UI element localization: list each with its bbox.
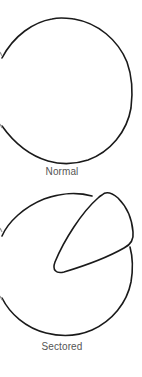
sectored-circle (0, 193, 133, 336)
normal-label: Normal (22, 166, 102, 177)
normal-circle (0, 18, 132, 164)
sectored-label: Sectored (22, 341, 102, 352)
diagram-drawing (0, 0, 142, 377)
figure-canvas: Normal Sectored (0, 0, 142, 377)
sector-wedge (54, 193, 133, 273)
